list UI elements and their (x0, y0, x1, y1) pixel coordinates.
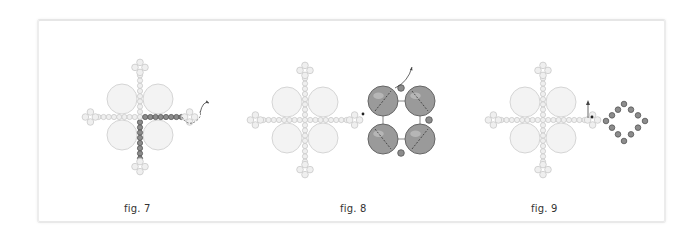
dark-seed-bead (635, 125, 641, 131)
picot-bead (495, 117, 502, 124)
seed-bead (540, 123, 545, 128)
fig-9-caption: fig. 9 (531, 203, 558, 214)
seed-bead (540, 138, 545, 143)
seed-bead (530, 117, 535, 122)
dark-seed-bead (609, 125, 615, 131)
dark-seed-bead (621, 101, 627, 107)
fig-7-caption: fig. 7 (124, 203, 151, 214)
seed-bead (546, 117, 551, 122)
arrow-head-icon (586, 100, 590, 105)
seed-bead (556, 117, 561, 122)
seed-bead (509, 117, 514, 122)
seed-bead (572, 117, 577, 122)
picot-bead (490, 122, 497, 129)
seed-bead (540, 149, 545, 154)
seed-bead (540, 112, 545, 117)
dark-seed-bead (609, 113, 615, 119)
picot-bead (545, 166, 552, 173)
dark-seed-bead (628, 132, 634, 138)
picot-bead (540, 171, 547, 178)
large-pearl (510, 87, 540, 117)
dark-seed-bead (642, 118, 648, 124)
seed-bead (540, 133, 545, 138)
seed-bead (540, 143, 545, 148)
seed-bead (561, 117, 566, 122)
seed-bead (540, 102, 545, 107)
picot-bead (490, 112, 497, 119)
seed-bead (577, 117, 582, 122)
seed-bead (540, 86, 545, 91)
seed-bead (540, 81, 545, 86)
seed-bead (540, 128, 545, 133)
dark-seed-bead (621, 138, 627, 144)
picot-bead (594, 117, 601, 124)
seed-bead (551, 117, 556, 122)
picot-bead (540, 62, 547, 69)
seed-bead (504, 117, 509, 122)
seed-bead (540, 107, 545, 112)
seed-bead (525, 117, 530, 122)
seed-bead (540, 97, 545, 102)
seed-bead (540, 154, 545, 159)
picot-bead (485, 117, 492, 124)
seed-bead (514, 117, 519, 122)
large-pearl (546, 123, 576, 153)
thread-knot (591, 116, 594, 119)
picot-bead (535, 67, 542, 74)
dark-seed-bead (615, 132, 621, 138)
large-pearl (510, 123, 540, 153)
seed-bead (540, 91, 545, 96)
seed-bead (540, 117, 545, 122)
dark-seed-bead (628, 107, 634, 113)
large-pearl (546, 87, 576, 117)
dark-seed-bead (615, 107, 621, 113)
dark-seed-bead (635, 113, 641, 119)
picot-bead (540, 72, 547, 79)
fig-8-caption: fig. 8 (340, 203, 367, 214)
picot-bead (540, 161, 547, 168)
dark-seed-bead (603, 118, 609, 124)
seed-bead (535, 117, 540, 122)
picot-bead (535, 166, 542, 173)
seed-bead (566, 117, 571, 122)
picot-bead (545, 67, 552, 74)
picot-bead (589, 122, 596, 129)
seed-bead (520, 117, 525, 122)
